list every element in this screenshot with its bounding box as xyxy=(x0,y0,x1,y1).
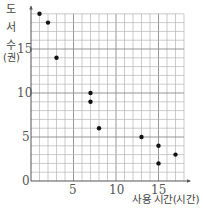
data-point xyxy=(54,56,58,60)
data-point xyxy=(156,161,160,165)
data-point xyxy=(156,144,160,148)
scatter-plot xyxy=(0,0,203,209)
data-point xyxy=(88,100,92,104)
origin-tick: 0 xyxy=(22,175,30,187)
data-point xyxy=(88,91,92,95)
data-point xyxy=(46,20,50,24)
data-point xyxy=(139,135,143,139)
data-point xyxy=(173,152,177,156)
x-axis-label: 사용 시간(시간) xyxy=(132,191,199,206)
data-point xyxy=(37,12,41,16)
y-tick-10: 10 xyxy=(17,87,32,99)
grid-lines xyxy=(31,14,184,181)
y-axis-label-char-2: 서 xyxy=(6,22,16,33)
y-axis-label-char-1: 도 xyxy=(6,4,16,15)
x-tick-5: 5 xyxy=(69,184,77,196)
y-tick-5: 5 xyxy=(22,131,30,143)
y-tick-15: 15 xyxy=(17,43,32,55)
x-tick-10: 10 xyxy=(109,184,124,196)
y-axis-label-char-3: 수 xyxy=(6,40,16,51)
data-point xyxy=(97,126,101,130)
